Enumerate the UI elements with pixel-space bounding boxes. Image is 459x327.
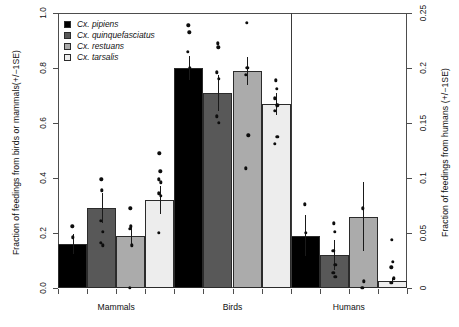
x-tick-mark — [291, 289, 292, 294]
bar — [233, 71, 262, 288]
right-tick-mark — [407, 13, 412, 14]
left-tick-label: 0.6 — [38, 117, 48, 129]
x-tick-mark — [145, 289, 146, 294]
x-tick-mark — [116, 289, 117, 294]
data-point — [361, 286, 364, 289]
left-tick-mark — [53, 233, 58, 234]
x-tick-mark — [378, 289, 379, 294]
error-bar — [247, 57, 248, 85]
right-tick-mark — [407, 178, 412, 179]
error-bar — [305, 215, 306, 256]
right-tick-label: 0.15 — [418, 115, 428, 131]
legend-label: Cx. pipiens — [77, 19, 118, 29]
error-bar — [102, 193, 103, 223]
left-tick-label: 0.4 — [38, 172, 48, 184]
right-tick-label: 0.05 — [418, 225, 428, 241]
left-tick-mark — [53, 13, 58, 14]
error-bar — [131, 228, 132, 245]
left-tick-label: 0.0 — [38, 282, 48, 294]
legend-swatch — [64, 32, 71, 39]
right-tick-label: 0 — [418, 286, 428, 291]
legend-label: Cx. tarsalis — [77, 52, 118, 62]
left-tick-mark — [53, 68, 58, 69]
legend-swatch — [64, 43, 71, 50]
left-tick-label: 1.0 — [38, 7, 48, 19]
error-bar — [160, 186, 161, 214]
x-tick-mark — [58, 289, 59, 294]
panel-divider-line — [291, 13, 292, 288]
x-tick-mark — [407, 289, 408, 294]
left-tick-mark — [53, 178, 58, 179]
error-bar — [363, 182, 364, 251]
legend-swatch — [64, 54, 71, 61]
x-axis-group-label: Humans — [333, 302, 365, 312]
x-tick-mark — [203, 289, 204, 294]
right-tick-label: 0.25 — [418, 5, 428, 21]
x-tick-mark — [262, 289, 263, 294]
x-axis-group-label: Birds — [223, 302, 243, 312]
x-tick-mark — [349, 289, 350, 294]
right-tick-mark — [407, 233, 412, 234]
right-tick-mark — [407, 123, 412, 124]
right-tick-mark — [407, 68, 412, 69]
x-axis-group-label: Mammals — [98, 302, 135, 312]
left-tick-mark — [53, 123, 58, 124]
right-axis-title: Fraction of feedings from humans (+/−1SE… — [440, 15, 450, 290]
legend-swatch — [64, 21, 71, 28]
bar — [174, 68, 203, 288]
x-tick-mark — [87, 289, 88, 294]
right-tick-label: 0.1 — [418, 172, 428, 184]
x-tick-mark — [320, 289, 321, 294]
left-axis-title: Fraction of feedings from birds or mamma… — [11, 15, 21, 290]
bar — [262, 104, 291, 288]
left-tick-label: 0.2 — [38, 227, 48, 239]
legend-label: Cx. quinquefasciatus — [77, 30, 155, 40]
right-tick-label: 0.2 — [418, 62, 428, 74]
legend-label: Cx. restuans — [77, 41, 124, 51]
x-tick-mark — [233, 289, 234, 294]
chart-figure: Fraction of feedings from birds or mamma… — [0, 0, 459, 327]
left-tick-label: 0.8 — [38, 62, 48, 74]
data-point — [128, 286, 131, 289]
x-tick-mark — [174, 289, 175, 294]
